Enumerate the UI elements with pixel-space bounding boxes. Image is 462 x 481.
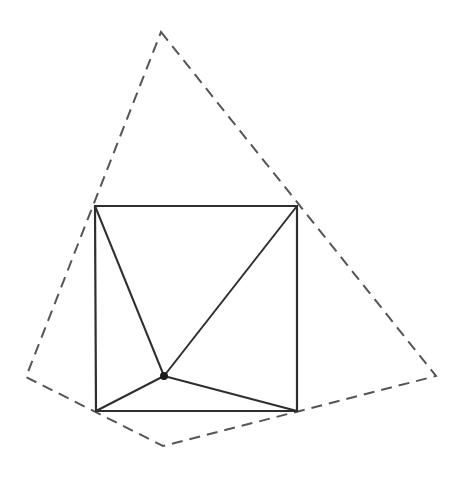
geometry-diagram [0,0,462,481]
interior-connectors [95,206,297,411]
interior-point [160,372,168,380]
connector-to-top-right [164,206,297,376]
connector-to-top-left [95,206,164,376]
square [95,206,297,411]
dashed-outer-quadrilateral [26,32,436,446]
connector-to-bottom-left [96,376,164,411]
connector-to-bottom-right [164,376,297,411]
